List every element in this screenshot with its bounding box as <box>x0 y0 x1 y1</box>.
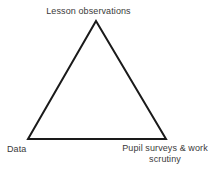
vertex-label-bottom-right-line1: Pupil surveys & work <box>122 143 208 153</box>
vertex-label-bottom-right-line2: scrutiny <box>149 154 181 164</box>
vertex-label-top: Lesson observations <box>0 6 177 17</box>
triangle-diagram: Lesson observations Data Pupil surveys &… <box>0 0 221 175</box>
vertex-label-bottom-right: Pupil surveys & work scrutiny <box>112 143 218 164</box>
triangle-outline <box>28 21 166 139</box>
vertex-label-bottom-left: Data <box>7 144 26 155</box>
